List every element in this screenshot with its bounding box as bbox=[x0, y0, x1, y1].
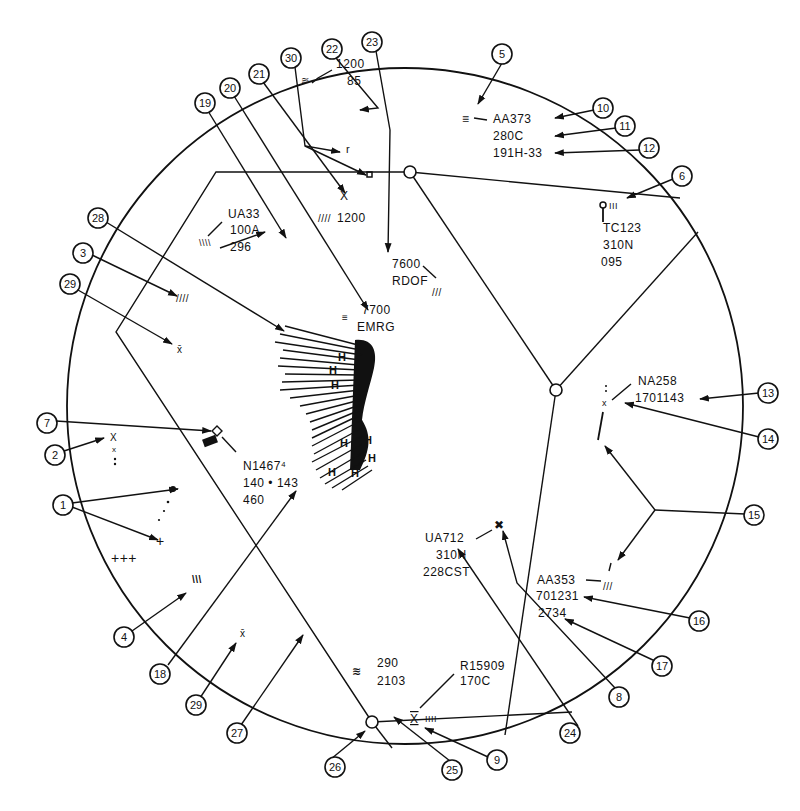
callout-4: 4 bbox=[114, 627, 134, 647]
callout-2: 2 bbox=[45, 445, 65, 465]
svg-text:1: 1 bbox=[60, 499, 66, 511]
svg-text:X: X bbox=[340, 189, 349, 203]
x-target-icon: X bbox=[110, 432, 117, 443]
data-block-ua712: UA712 310N 228CST ✖ bbox=[423, 518, 504, 579]
svg-text:29: 29 bbox=[64, 278, 76, 290]
svg-text:460: 460 bbox=[243, 493, 265, 507]
callout-8: 8 bbox=[609, 687, 629, 707]
svg-text:191H-33: 191H-33 bbox=[493, 146, 543, 160]
history-trail-icon: /// bbox=[603, 581, 613, 592]
svg-text:140 • 143: 140 • 143 bbox=[243, 476, 298, 490]
airway-top-center bbox=[410, 172, 556, 390]
callout-13: 13 bbox=[758, 383, 778, 403]
svg-text:x: x bbox=[112, 445, 117, 454]
svg-text:H: H bbox=[328, 466, 336, 478]
callout-27: 27 bbox=[227, 723, 247, 743]
x-bar-target-icon: x̄ bbox=[240, 628, 246, 639]
history-trail-icon: //// bbox=[318, 213, 331, 224]
svg-text:H: H bbox=[340, 437, 348, 449]
svg-text:21: 21 bbox=[253, 68, 265, 80]
callout-25: 25 bbox=[442, 760, 462, 780]
svg-text:170C: 170C bbox=[460, 674, 491, 688]
svg-text:310N: 310N bbox=[603, 238, 634, 252]
svg-text:17: 17 bbox=[656, 660, 668, 672]
history-trail-icon: ≋ bbox=[352, 665, 362, 677]
callout-6: 6 bbox=[672, 166, 692, 186]
svg-text:1200: 1200 bbox=[336, 57, 365, 71]
callout-14: 14 bbox=[758, 429, 778, 449]
radar-scope-diagram: 1 2 3 4 5 6 7 8 9 10 11 12 13 14 15 16 1… bbox=[0, 0, 800, 811]
callout-29: 29 bbox=[60, 274, 80, 294]
primary-target-icon bbox=[170, 486, 176, 492]
svg-text:UA33: UA33 bbox=[228, 207, 260, 221]
history-trail-icon: /// bbox=[432, 287, 442, 298]
callout-15: 15 bbox=[744, 505, 764, 525]
svg-text:28: 28 bbox=[92, 212, 104, 224]
callout-20: 20 bbox=[220, 78, 240, 98]
svg-text:H: H bbox=[356, 341, 364, 353]
svg-text:UA712: UA712 bbox=[425, 531, 464, 545]
svg-text:4: 4 bbox=[121, 631, 127, 643]
callout-10: 10 bbox=[593, 98, 613, 118]
data-block-vfr-1200: X 1200 //// bbox=[318, 189, 366, 225]
plus-history-icon: +++ bbox=[111, 550, 137, 566]
callout-12: 12 bbox=[639, 138, 659, 158]
callout-21: 21 bbox=[249, 64, 269, 84]
callout-24: 24 bbox=[560, 723, 580, 743]
svg-text:AA373: AA373 bbox=[493, 112, 532, 126]
svg-text:8: 8 bbox=[616, 691, 622, 703]
target-history-icon: ≡ bbox=[462, 112, 470, 126]
svg-text:5: 5 bbox=[499, 48, 505, 60]
svg-text:R15909: R15909 bbox=[460, 659, 505, 673]
svg-text:2734: 2734 bbox=[538, 606, 567, 620]
callout-22: 22 bbox=[322, 39, 342, 59]
svg-text:H: H bbox=[329, 364, 337, 376]
svg-text:25: 25 bbox=[446, 764, 458, 776]
weather-precipitation-area: H H H H H H H H H H H H H bbox=[275, 326, 383, 490]
data-block-tc123: TC123 310N 095 III bbox=[600, 201, 642, 269]
svg-text:1701143: 1701143 bbox=[635, 391, 684, 405]
x-target-icon: x bbox=[602, 398, 607, 408]
callout-5: 5 bbox=[492, 44, 512, 64]
svg-text:14: 14 bbox=[762, 433, 774, 445]
svg-text:22: 22 bbox=[326, 43, 338, 55]
airway-bottom-east bbox=[372, 712, 572, 722]
callout-17: 17 bbox=[652, 656, 672, 676]
data-block-n1467: N1467⁴ 140 • 143 460 bbox=[202, 426, 298, 507]
svg-text:H: H bbox=[375, 346, 383, 358]
svg-text:H: H bbox=[375, 377, 383, 389]
callout-3: 3 bbox=[73, 243, 93, 263]
svg-text:NA258: NA258 bbox=[638, 374, 677, 388]
callout-1: 1 bbox=[53, 495, 73, 515]
callout-11: 11 bbox=[615, 116, 635, 136]
svg-text:18: 18 bbox=[154, 668, 166, 680]
svg-text:15: 15 bbox=[748, 509, 760, 521]
callout-30: 30 bbox=[281, 48, 301, 68]
coast-target-icon: ✖ bbox=[494, 518, 504, 532]
svg-text:EMRG: EMRG bbox=[357, 320, 395, 334]
svg-text:7600: 7600 bbox=[392, 257, 421, 271]
svg-text:7: 7 bbox=[44, 417, 50, 429]
callout-16: 16 bbox=[689, 611, 709, 631]
data-block-7700: 7700 EMRG ≡ bbox=[342, 303, 395, 334]
radar-target-square-icon bbox=[367, 172, 372, 177]
svg-text:RDOF: RDOF bbox=[392, 274, 428, 288]
svg-text:H: H bbox=[338, 351, 346, 363]
svg-text:26: 26 bbox=[329, 761, 341, 773]
svg-text:296: 296 bbox=[230, 240, 252, 254]
beacon-target-icon bbox=[600, 202, 606, 208]
svg-text:AA353: AA353 bbox=[537, 573, 576, 587]
svg-text:2: 2 bbox=[52, 449, 58, 461]
svg-text:7700: 7700 bbox=[362, 303, 391, 317]
svg-text:2103: 2103 bbox=[377, 674, 406, 688]
history-trail-icon: \\\\ bbox=[199, 238, 211, 248]
svg-text:H: H bbox=[331, 379, 339, 391]
history-trail-icon: //// bbox=[176, 293, 189, 304]
callout-badges: 1 2 3 4 5 6 7 8 9 10 11 12 13 14 15 16 1… bbox=[37, 32, 778, 780]
svg-text:III: III bbox=[609, 201, 618, 211]
svg-text:10: 10 bbox=[597, 102, 609, 114]
airway-center-ne bbox=[556, 232, 698, 390]
svg-text:16: 16 bbox=[693, 615, 705, 627]
svg-text:19: 19 bbox=[199, 97, 211, 109]
history-blob-icon bbox=[202, 435, 218, 447]
